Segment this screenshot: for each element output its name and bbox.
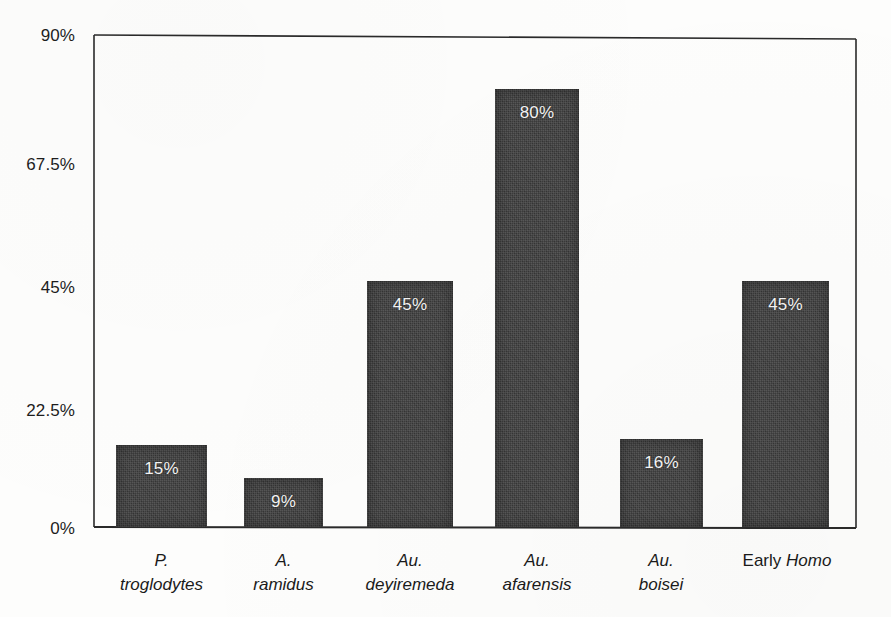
x-label-line2: afarensis bbox=[466, 573, 608, 597]
bar-series: 15% 9% 45% 80% 16% 45% bbox=[0, 0, 891, 617]
x-label-early-homo: Early Homo bbox=[714, 549, 860, 573]
x-label-au-boisei: Au. boisei bbox=[590, 549, 732, 597]
x-label-line1: Early Homo bbox=[714, 549, 860, 573]
x-label-line1: Au. bbox=[590, 549, 732, 573]
bar-a-ramidus[interactable]: 9% bbox=[244, 478, 323, 527]
x-label-line1: A. bbox=[215, 549, 352, 573]
bar-value-label: 15% bbox=[116, 459, 207, 479]
chart-page: 90% 67.5% 45% 22.5% 0% 15% 9% 45% bbox=[0, 0, 891, 617]
x-label-homo-genus: Homo bbox=[786, 551, 831, 570]
x-label-line1: Au. bbox=[339, 549, 481, 573]
x-label-line2: ramidus bbox=[215, 573, 352, 597]
bar-value-label: 45% bbox=[742, 295, 829, 315]
x-label-au-deyiremeda: Au. deyiremeda bbox=[339, 549, 481, 597]
bar-early-homo[interactable]: 45% bbox=[742, 281, 829, 527]
x-label-line2: boisei bbox=[590, 573, 732, 597]
bar-value-label: 45% bbox=[367, 295, 453, 315]
bar-au-boisei[interactable]: 16% bbox=[620, 439, 703, 527]
x-label-au-afarensis: Au. afarensis bbox=[466, 549, 608, 597]
x-label-line1: Au. bbox=[466, 549, 608, 573]
x-label-line2: troglodytes bbox=[91, 573, 232, 597]
x-label-a-ramidus: A. ramidus bbox=[215, 549, 352, 597]
bar-p-troglodytes[interactable]: 15% bbox=[116, 445, 207, 527]
bar-au-deyiremeda[interactable]: 45% bbox=[367, 281, 453, 527]
bar-value-label: 16% bbox=[620, 453, 703, 473]
x-label-line1: P. bbox=[91, 549, 232, 573]
bar-value-label: 9% bbox=[244, 492, 323, 512]
bar-au-afarensis[interactable]: 80% bbox=[495, 89, 579, 527]
bar-value-label: 80% bbox=[495, 103, 579, 123]
x-axis-category-labels: P. troglodytes A. ramidus Au. deyiremeda… bbox=[0, 549, 891, 617]
x-label-line2: deyiremeda bbox=[339, 573, 481, 597]
x-label-p-troglodytes: P. troglodytes bbox=[91, 549, 232, 597]
x-label-early-prefix: Early bbox=[743, 551, 786, 570]
